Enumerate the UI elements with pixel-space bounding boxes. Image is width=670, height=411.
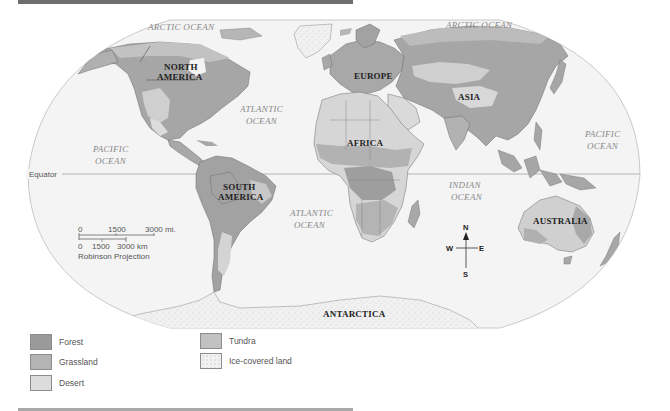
label-pacific-east-1: PACIFIC	[584, 129, 621, 139]
label-pacific-west-1: PACIFIC	[92, 144, 129, 154]
label-australia: AUSTRALIA	[533, 216, 588, 226]
label-pacific-west-2: OCEAN	[95, 156, 127, 166]
map-legend: Forest Grassland Desert Tundra Ice-cover…	[30, 334, 390, 394]
label-africa: AFRICA	[347, 138, 383, 148]
legend-label: Desert	[59, 378, 84, 388]
label-atlantic-north-1: ATLANTIC	[239, 104, 284, 114]
label-atlantic-north-2: OCEAN	[246, 116, 278, 126]
scale-mi-0: 0	[78, 225, 83, 234]
legend-item-tundra: Tundra	[200, 333, 256, 349]
label-indian-2: OCEAN	[451, 192, 483, 202]
legend-item-forest: Forest	[30, 334, 83, 350]
scale-km-3000: 3000 km	[117, 242, 148, 251]
forest-swatch	[30, 334, 52, 350]
svg-text:S: S	[463, 270, 468, 279]
legend-item-ice: Ice-covered land	[200, 353, 292, 369]
legend-label: Grassland	[59, 357, 98, 367]
label-pacific-east-2: OCEAN	[587, 141, 619, 151]
scale-km-0: 0	[78, 242, 83, 251]
svg-text:N: N	[463, 223, 468, 232]
ice-swatch	[200, 353, 222, 369]
label-antarctica: ANTARCTICA	[323, 309, 386, 319]
label-north-america-1: NORTH	[164, 62, 198, 72]
tundra-swatch	[200, 333, 222, 349]
label-south-america-1: SOUTH	[223, 182, 256, 192]
grassland-swatch	[30, 354, 52, 370]
label-indian-1: INDIAN	[448, 180, 481, 190]
legend-item-desert: Desert	[30, 375, 84, 391]
legend-item-grassland: Grassland	[30, 354, 98, 370]
label-atlantic-south-2: OCEAN	[294, 220, 326, 230]
legend-label: Forest	[59, 337, 83, 347]
svg-text:E: E	[479, 244, 484, 253]
label-arctic-ocean-west: ARCTIC OCEAN	[147, 22, 215, 32]
desert-swatch	[30, 375, 52, 391]
world-biome-map: ARCTIC OCEAN ARCTIC OCEAN ATLANTIC OCEAN…	[0, 0, 670, 335]
label-atlantic-south-1: ATLANTIC	[289, 208, 334, 218]
label-equator: Equator	[29, 170, 57, 179]
scale-mi-1500: 1500	[108, 225, 126, 234]
label-north-america-2: AMERICA	[157, 72, 203, 82]
label-europe: EUROPE	[354, 71, 393, 81]
label-asia: ASIA	[458, 92, 481, 102]
projection-label: Robinson Projection	[78, 252, 150, 261]
legend-label: Tundra	[229, 336, 256, 346]
svg-text:W: W	[446, 244, 454, 253]
scale-km-1500: 1500	[92, 242, 110, 251]
label-arctic-ocean-east: ARCTIC OCEAN	[445, 20, 513, 30]
scale-mi-3000: 3000 mi.	[145, 225, 176, 234]
label-south-america-2: AMERICA	[218, 192, 264, 202]
legend-label: Ice-covered land	[229, 356, 292, 366]
